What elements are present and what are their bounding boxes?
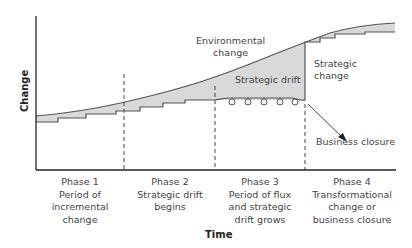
- phase-2-desc-1: Strategic drift: [126, 189, 214, 202]
- phase-4-desc-1: Transformational: [306, 189, 398, 202]
- environmental-change-line2: change: [213, 47, 248, 58]
- strategic-drift-label: Strategic drift: [235, 74, 300, 86]
- phase-4-label: Phase 4 Transformational change or busin…: [306, 176, 398, 226]
- environmental-change-label: Environmental change: [196, 35, 265, 59]
- phase-1-label: Phase 1 Period of incremental change: [36, 176, 124, 226]
- environmental-change-line1: Environmental: [196, 35, 265, 46]
- phase-1-desc-2: change: [36, 214, 124, 227]
- phase-3-title: Phase 3: [216, 176, 304, 189]
- phase-1-title: Phase 1: [36, 176, 124, 189]
- phase-4-title: Phase 4: [306, 176, 398, 189]
- phase-2-title: Phase 2: [126, 176, 214, 189]
- business-closure-label: Business closure: [316, 136, 395, 148]
- phase-3-desc-1: Period of flux: [216, 189, 304, 202]
- phase-3-desc-2: and strategic: [216, 201, 304, 214]
- strategic-change-line2: change: [314, 70, 349, 81]
- phase-4-desc-3: business closure: [306, 214, 398, 227]
- phase-4-desc-2: change or: [306, 201, 398, 214]
- phase-1-desc-1: Period of incremental: [36, 189, 124, 214]
- y-axis-title: Change: [19, 70, 30, 112]
- phase-2-desc-2: begins: [126, 201, 214, 214]
- phase-3-label: Phase 3 Period of flux and strategic dri…: [216, 176, 304, 226]
- strategic-change-label: Strategic change: [314, 58, 357, 82]
- phase-2-label: Phase 2 Strategic drift begins: [126, 176, 214, 214]
- strategic-change-line1: Strategic: [314, 58, 357, 69]
- phase-3-desc-3: drift grows: [216, 214, 304, 227]
- x-axis-title: Time: [205, 229, 232, 240]
